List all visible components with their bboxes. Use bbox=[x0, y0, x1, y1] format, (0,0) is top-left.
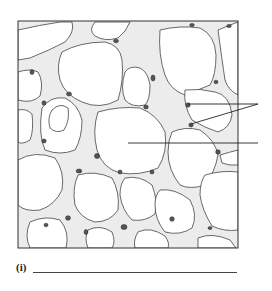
cell-walls bbox=[18, 21, 238, 248]
cell-diagram bbox=[0, 0, 272, 291]
question-label: (i) bbox=[16, 261, 26, 273]
answer-line[interactable] bbox=[33, 272, 237, 273]
